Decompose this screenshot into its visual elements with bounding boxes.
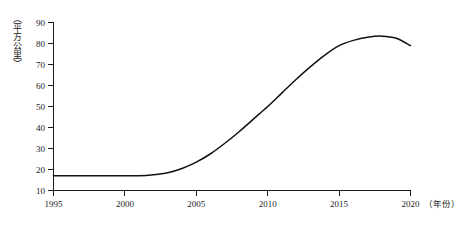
x-axis-title: （年份） xyxy=(424,199,460,209)
x-tick-label-2000: 2000 xyxy=(116,199,135,209)
x-axis: 1995 2000 2005 2010 2015 2020 （年份） xyxy=(45,191,461,210)
series-group xyxy=(54,36,411,176)
x-tick-label-2005: 2005 xyxy=(187,199,206,209)
y-axis: 90 80 70 60 50 40 30 20 10 xyxy=(36,18,54,196)
y-tick-label-10: 10 xyxy=(36,186,46,196)
line-chart: （平方公里） 90 80 70 60 50 40 30 20 10 xyxy=(0,0,472,226)
x-tick-label-2020: 2020 xyxy=(402,199,421,209)
x-tick-label-1995: 1995 xyxy=(45,199,64,209)
y-tick-label-20: 20 xyxy=(36,165,46,175)
x-tick-label-2010: 2010 xyxy=(259,199,278,209)
chart-plot-area: 90 80 70 60 50 40 30 20 10 1995 2000 200… xyxy=(0,0,472,226)
y-tick-label-70: 70 xyxy=(36,60,46,70)
y-tick-label-60: 60 xyxy=(36,81,46,91)
y-tick-label-90: 90 xyxy=(36,18,46,28)
x-tick-label-2015: 2015 xyxy=(330,199,349,209)
y-tick-label-50: 50 xyxy=(36,102,46,112)
series-line-built-up-area xyxy=(54,36,411,176)
y-tick-label-40: 40 xyxy=(36,123,46,133)
y-tick-label-80: 80 xyxy=(36,39,46,49)
y-tick-label-30: 30 xyxy=(36,144,46,154)
